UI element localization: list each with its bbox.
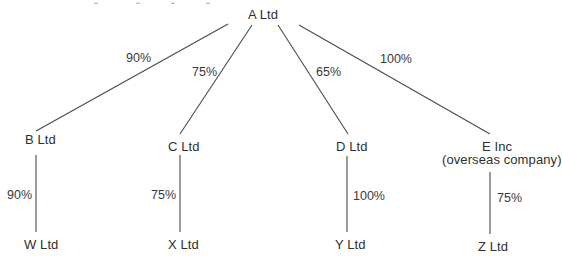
pct-e-z: 75% [497, 192, 522, 205]
pct-a-e: 100% [380, 53, 412, 66]
edge-a-d [278, 25, 348, 134]
edge-a-c [180, 25, 252, 134]
pct-a-d: 65% [316, 66, 341, 79]
node-d-ltd: D Ltd [336, 140, 368, 153]
node-z-ltd: Z Ltd [478, 240, 508, 253]
node-y-ltd: Y Ltd [335, 238, 366, 251]
edge-a-e [299, 25, 490, 134]
pct-d-y: 100% [353, 190, 385, 203]
node-e-sublabel: (overseas company) [442, 153, 562, 166]
pct-a-b: 90% [126, 52, 151, 65]
node-w-ltd: W Ltd [24, 238, 58, 251]
pct-c-x: 75% [151, 189, 176, 202]
node-c-ltd: C Ltd [168, 140, 200, 153]
pct-b-w: 90% [7, 189, 32, 202]
node-a-ltd: A Ltd [248, 8, 278, 21]
pct-a-c: 75% [192, 66, 217, 79]
node-x-ltd: X Ltd [168, 238, 199, 251]
node-b-ltd: B Ltd [25, 133, 56, 146]
